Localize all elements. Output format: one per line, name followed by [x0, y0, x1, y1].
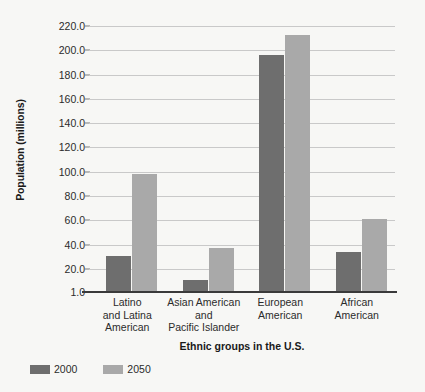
y-axis-tick-label: 80.0 [39, 190, 85, 202]
legend-label: 2000 [54, 363, 77, 375]
y-axis-tick-label: 220.0 [39, 20, 85, 32]
y-axis-title: Population (millions) [8, 0, 32, 300]
y-axis-title-text: Population (millions) [14, 99, 26, 201]
bar-group [319, 26, 396, 292]
bar-group [242, 26, 319, 292]
y-axis-tick-label: 140.0 [39, 117, 85, 129]
bar-group [166, 26, 243, 292]
legend-swatch [30, 365, 50, 374]
bar-2050 [209, 248, 234, 292]
y-axis-tick-label: 180.0 [39, 69, 85, 81]
bar-2000 [336, 252, 361, 292]
bar-2000 [106, 256, 131, 292]
bar-2000 [259, 55, 284, 292]
y-axis-tick-label: 1.0 [39, 286, 85, 298]
x-axis-title: Ethnic groups in the U.S. [89, 340, 395, 352]
legend-swatch [103, 365, 123, 374]
y-axis-tick-label: 40.0 [39, 239, 85, 251]
x-axis-category-labels: Latinoand LatinaAmericanAsian Americanan… [89, 296, 395, 338]
legend-item-2000: 2000 [30, 363, 77, 375]
y-axis-tick-label: 20.0 [39, 263, 85, 275]
y-axis-tick-label: 120.0 [39, 141, 85, 153]
x-axis-category-label: Latinoand LatinaAmerican [84, 296, 170, 334]
legend-label: 2050 [127, 363, 150, 375]
chart-legend: 20002050 [30, 363, 151, 375]
bar-2050 [132, 174, 157, 292]
x-axis-category-label: Asian AmericanandPacific Islander [161, 296, 247, 334]
y-axis-ticks: 1.020.040.060.080.0100.0120.0140.0160.01… [35, 26, 85, 292]
bar-2050 [362, 219, 387, 292]
legend-item-2050: 2050 [103, 363, 150, 375]
y-axis-tick-label: 60.0 [39, 214, 85, 226]
plot-area [89, 26, 395, 292]
y-axis-tick-label: 160.0 [39, 93, 85, 105]
bar-chart: Population (millions) 1.020.040.060.080.… [0, 0, 425, 392]
x-axis-category-label: EuropeanAmerican [237, 296, 323, 321]
y-axis-tick-label: 200.0 [39, 44, 85, 56]
y-axis-tick-label: 100.0 [39, 166, 85, 178]
x-axis-line [82, 291, 397, 293]
bar-2050 [285, 35, 310, 292]
x-axis-category-label: AfricanAmerican [314, 296, 400, 321]
bar-group [89, 26, 166, 292]
